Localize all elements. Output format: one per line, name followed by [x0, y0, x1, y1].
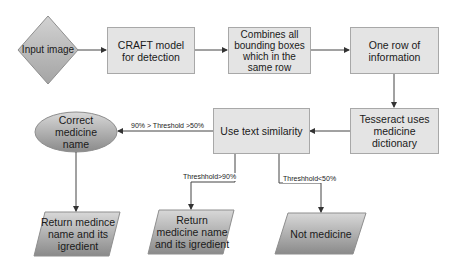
- return-2-label: Return medicine name and its igredient: [154, 214, 230, 250]
- one-row-label: One row of information: [351, 39, 438, 63]
- edge-similarity-to-return2: [191, 154, 235, 209]
- not-medicine-label: Not medicine: [286, 228, 355, 240]
- craft-label: CRAFT model for detection: [108, 39, 194, 63]
- similarity-node: Use text similarity: [213, 108, 310, 154]
- return-2-node: Return medicine name and its igredient: [154, 210, 230, 254]
- tesseract-label: Tesseract uses medicine dictionary: [351, 113, 438, 149]
- return-1-label: Return medince name and its igredient: [40, 216, 116, 252]
- edge-label-low-threshold: Threshhold<50%: [283, 175, 336, 183]
- edge-label-high-threshold: Threshhold>90%: [183, 173, 236, 181]
- craft-node: CRAFT model for detection: [107, 27, 195, 74]
- similarity-label: Use text similarity: [216, 125, 306, 137]
- tesseract-node: Tesseract uses medicine dictionary: [350, 108, 439, 154]
- not-medicine-node: Not medicine: [280, 213, 362, 254]
- one-row-node: One row of information: [350, 27, 439, 74]
- correct-name-label: Correct medicine name: [35, 114, 117, 150]
- input-image-node: Input image: [18, 16, 78, 84]
- edge-label-mid-threshold: 90% > Threshold >50%: [131, 122, 204, 130]
- return-1-node: Return medince name and its igredient: [40, 212, 116, 256]
- correct-name-node: Correct medicine name: [35, 112, 117, 152]
- combine-label: Combines all bounding boxes which in the…: [229, 29, 310, 73]
- combine-node: Combines all bounding boxes which in the…: [228, 27, 311, 74]
- edge-similarity-to-notmedicine: [279, 154, 321, 212]
- input-image-label: Input image: [22, 44, 74, 56]
